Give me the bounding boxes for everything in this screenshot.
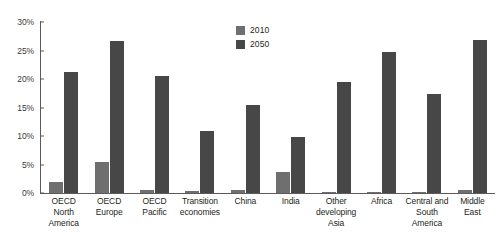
bar-group [404, 22, 449, 193]
bar-2010 [412, 192, 426, 193]
x-axis-label-line: Transition [178, 196, 221, 207]
x-axis-line [40, 193, 495, 194]
x-axis-label-line: developing Asia [314, 207, 357, 229]
legend-label-2050: 2050 [250, 39, 269, 49]
bar-2050 [473, 40, 487, 193]
x-axis-label: MiddleEast [450, 196, 495, 229]
x-axis-label-line: East [451, 207, 494, 218]
x-axis-label: Central andSouth America [404, 196, 449, 229]
bar-group [313, 22, 358, 193]
x-axis-label-line: OECD North [42, 196, 85, 218]
x-axis-label: Transitioneconomies [177, 196, 222, 229]
bar-2010 [322, 192, 336, 193]
y-axis-tick-label: 0% [22, 188, 40, 198]
x-axis-label-line: India [269, 196, 312, 207]
bar-2050 [200, 131, 214, 193]
x-axis-label-line: Africa [360, 196, 403, 207]
x-axis-label: OECDEurope [86, 196, 131, 229]
x-axis-label: OECDPacific [132, 196, 177, 229]
x-axis-label-line: Europe [87, 207, 130, 218]
bar-2010 [185, 191, 199, 193]
bar-2010 [276, 172, 290, 193]
bar-2050 [64, 72, 78, 193]
legend-label-2010: 2010 [250, 25, 269, 35]
bar-2010 [458, 190, 472, 193]
bar-group [177, 22, 222, 193]
x-axis-label: Otherdeveloping Asia [313, 196, 358, 229]
bar-group [86, 22, 131, 193]
x-axis-label-line: Pacific [133, 207, 176, 218]
bar-2010 [231, 190, 245, 193]
x-axis-label-line: economies [178, 207, 221, 218]
x-axis-label: Africa [359, 196, 404, 229]
bar-group [41, 22, 86, 193]
bar-2050 [291, 137, 305, 193]
legend-swatch-icon-2010 [236, 26, 245, 35]
legend: 2010 2050 [236, 24, 269, 52]
legend-item-2050: 2050 [236, 38, 269, 50]
x-axis-label-line: OECD [87, 196, 130, 207]
bar-2050 [427, 94, 441, 193]
bar-2010 [95, 162, 109, 193]
x-axis-label-line: China [224, 196, 267, 207]
y-axis-tick-label: 30% [17, 17, 40, 27]
x-axis-label-line: Other [314, 196, 357, 207]
bar-2010 [49, 182, 63, 193]
bar-2010 [140, 190, 154, 193]
bar-group [268, 22, 313, 193]
bar-chart: 0%5%10%15%20%25%30% OECD NorthAmericaOEC… [0, 0, 502, 233]
legend-swatch-icon-2050 [236, 40, 245, 49]
y-axis-tick-label: 15% [17, 103, 40, 113]
x-axis-label-line: South America [405, 207, 448, 229]
bar-group [359, 22, 404, 193]
bar-2010 [367, 192, 381, 193]
x-axis-label-line: Central and [405, 196, 448, 207]
bar-group [132, 22, 177, 193]
x-axis-label: China [223, 196, 268, 229]
x-axis-label-line: Middle [451, 196, 494, 207]
bar-2050 [110, 41, 124, 193]
y-axis-tick-label: 20% [17, 74, 40, 84]
x-axis-label-line: OECD [133, 196, 176, 207]
x-axis-labels: OECD NorthAmericaOECDEuropeOECDPacificTr… [41, 196, 495, 229]
y-axis-tick-label: 10% [17, 131, 40, 141]
x-axis-label: India [268, 196, 313, 229]
legend-item-2010: 2010 [236, 24, 269, 36]
bar-2050 [155, 76, 169, 193]
x-axis-label-line: America [42, 218, 85, 229]
y-axis-tick-label: 25% [17, 46, 40, 56]
bar-2050 [337, 82, 351, 193]
y-axis-tick-label: 5% [22, 160, 40, 170]
bar-2050 [382, 52, 396, 193]
x-axis-label: OECD NorthAmerica [41, 196, 86, 229]
bar-2050 [246, 105, 260, 193]
bar-group [450, 22, 495, 193]
